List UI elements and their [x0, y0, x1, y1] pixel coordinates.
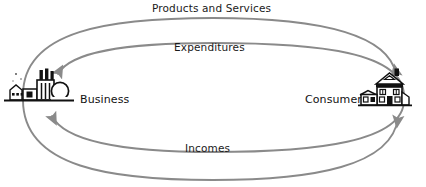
node-label-business: Business — [80, 93, 129, 106]
house-icon — [358, 66, 424, 108]
circular-flow-diagram: Products and Services Expenditures Incom… — [0, 0, 426, 187]
label-expenditures: Expenditures — [174, 41, 245, 53]
factory-icon — [4, 62, 76, 107]
arc-incomes — [23, 100, 398, 180]
label-incomes: Incomes — [185, 142, 230, 154]
arc-products-and-services — [23, 18, 396, 95]
label-products-and-services: Products and Services — [152, 2, 271, 14]
